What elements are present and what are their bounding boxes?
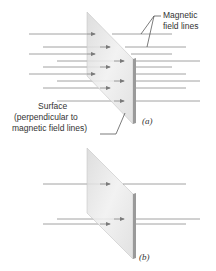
label-field-lines: field lines	[163, 21, 198, 31]
label-surface-field: magnetic field lines)	[12, 123, 87, 133]
surface-plate-a	[87, 12, 136, 124]
label-surface-paren: (perpendicular to	[14, 112, 78, 122]
label-surface: Surface	[38, 101, 67, 111]
panel-a-tag: (a)	[142, 116, 153, 126]
leader-field-lines	[141, 16, 161, 47]
panel-b-tag: (b)	[139, 252, 150, 262]
label-magnetic: Magnetic	[163, 10, 198, 20]
panel-b	[43, 148, 200, 259]
surface-plate-b	[87, 148, 136, 259]
leader-surface	[100, 113, 125, 134]
diagram-canvas	[0, 0, 216, 271]
